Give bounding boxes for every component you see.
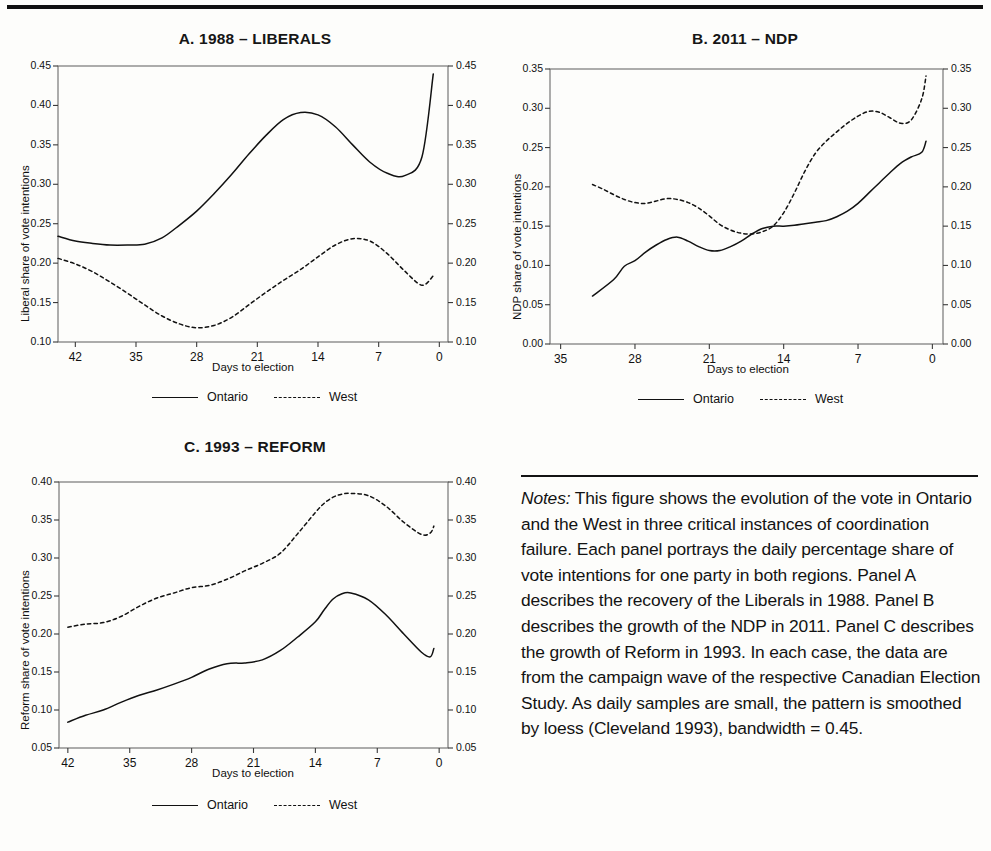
- legend-ontario-label: Ontario: [207, 390, 248, 404]
- x-tick-label: 0: [424, 756, 454, 770]
- x-tick-label: 21: [694, 352, 724, 366]
- x-tick-label: 42: [60, 350, 90, 364]
- legend-ontario-label: Ontario: [693, 392, 734, 406]
- y-tick-label-right: 0.05: [951, 298, 991, 310]
- y-tick-label: 0.20: [11, 256, 51, 268]
- y-tick-label-right: 0.00: [951, 337, 991, 349]
- notes-divider: [521, 475, 978, 477]
- panel-b: B. 2011 – NDP Days to election NDP share…: [480, 0, 991, 420]
- y-tick-label-right: 0.35: [456, 513, 496, 525]
- y-tick-label-right: 0.30: [456, 551, 496, 563]
- y-tick-label-right: 0.20: [456, 627, 496, 639]
- x-tick-label: 14: [769, 352, 799, 366]
- x-tick-label: 35: [115, 756, 145, 770]
- y-tick-label: 0.45: [11, 59, 51, 71]
- legend-west-label: West: [815, 392, 843, 406]
- legend-west-line-icon: [274, 805, 320, 806]
- y-tick-label: 0.25: [11, 217, 51, 229]
- y-tick-label-right: 0.05: [456, 741, 496, 753]
- y-tick-label: 0.35: [12, 513, 52, 525]
- legend-ontario-line-icon: [152, 805, 198, 806]
- x-tick-label: 7: [364, 350, 394, 364]
- x-tick-label: 7: [843, 352, 873, 366]
- y-tick-label: 0.20: [12, 627, 52, 639]
- notes-block: Notes: This figure shows the evolution o…: [521, 486, 983, 742]
- y-tick-label: 0.20: [503, 180, 543, 192]
- legend-west-line-icon: [274, 397, 320, 398]
- x-tick-label: 14: [300, 756, 330, 770]
- legend-ontario-line-icon: [638, 399, 684, 400]
- panel-a-legend: Ontario West: [152, 390, 383, 404]
- legend-ontario-line-icon: [152, 397, 198, 398]
- y-tick-label: 0.10: [12, 703, 52, 715]
- x-tick-label: 28: [177, 756, 207, 770]
- y-tick-label-right: 0.35: [951, 62, 991, 74]
- panel-c: C. 1993 – REFORM Days to election Reform…: [0, 430, 480, 851]
- x-tick-label: 7: [362, 756, 392, 770]
- panel-b-xaxis-label: Days to election: [648, 363, 848, 375]
- legend-west-label: West: [329, 798, 357, 812]
- y-tick-label: 0.10: [503, 258, 543, 270]
- y-tick-label: 0.00: [503, 337, 543, 349]
- y-tick-label: 0.15: [503, 219, 543, 231]
- figure-page: A. 1988 – LIBERALS Days to election Libe…: [0, 0, 991, 851]
- x-tick-label: 21: [242, 350, 272, 364]
- y-tick-label-right: 0.10: [456, 703, 496, 715]
- y-tick-label-right: 0.40: [456, 475, 496, 487]
- y-tick-label: 0.30: [11, 177, 51, 189]
- y-tick-label: 0.40: [11, 98, 51, 110]
- x-tick-label: 0: [917, 352, 947, 366]
- y-tick-label: 0.30: [503, 101, 543, 113]
- x-tick-label: 42: [53, 756, 83, 770]
- x-tick-label: 35: [546, 352, 576, 366]
- y-tick-label: 0.40: [12, 475, 52, 487]
- y-tick-label-right: 0.15: [456, 665, 496, 677]
- y-tick-label: 0.35: [503, 62, 543, 74]
- y-tick-label-right: 0.10: [951, 258, 991, 270]
- x-tick-label: 0: [424, 350, 454, 364]
- panel-b-legend: Ontario West: [638, 392, 869, 406]
- y-tick-label-right: 0.30: [951, 101, 991, 113]
- y-tick-label: 0.15: [12, 665, 52, 677]
- legend-west-label: West: [329, 390, 357, 404]
- legend-ontario-label: Ontario: [207, 798, 248, 812]
- legend-west-line-icon: [760, 399, 806, 400]
- y-tick-label: 0.15: [11, 296, 51, 308]
- notes-text: This figure shows the evolution of the v…: [521, 488, 980, 738]
- panel-c-legend: Ontario West: [152, 798, 383, 812]
- y-tick-label: 0.05: [503, 298, 543, 310]
- x-tick-label: 21: [239, 756, 269, 770]
- y-tick-label: 0.25: [12, 589, 52, 601]
- x-tick-label: 28: [620, 352, 650, 366]
- y-tick-label-right: 0.15: [951, 219, 991, 231]
- y-tick-label-right: 0.25: [951, 141, 991, 153]
- y-tick-label: 0.30: [12, 551, 52, 563]
- y-tick-label-right: 0.25: [456, 589, 496, 601]
- panel-a: A. 1988 – LIBERALS Days to election Libe…: [0, 0, 480, 420]
- notes-label: Notes:: [521, 488, 570, 508]
- y-tick-label: 0.10: [11, 335, 51, 347]
- y-tick-label: 0.05: [12, 741, 52, 753]
- x-tick-label: 28: [182, 350, 212, 364]
- y-tick-label: 0.35: [11, 138, 51, 150]
- x-tick-label: 35: [121, 350, 151, 364]
- x-tick-label: 14: [303, 350, 333, 364]
- panel-c-plot: [0, 430, 480, 851]
- y-tick-label: 0.25: [503, 141, 543, 153]
- y-tick-label-right: 0.20: [951, 180, 991, 192]
